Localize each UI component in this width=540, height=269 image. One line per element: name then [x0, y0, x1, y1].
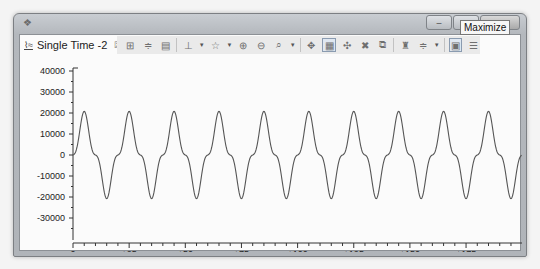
minimize-button[interactable]: –: [426, 15, 452, 30]
x-tick-label: +125: [344, 249, 364, 252]
snap-icon[interactable]: ✣: [340, 38, 354, 52]
y-tick-label: -20000: [37, 192, 65, 202]
y-tick-label: 0: [60, 150, 65, 160]
x-tick-label: +150: [400, 249, 420, 252]
pan-icon[interactable]: ✥: [305, 38, 319, 52]
zoom-box-icon[interactable]: ▤: [158, 38, 172, 52]
x-tick-label: +25: [122, 249, 137, 252]
fit-all-icon[interactable]: ⊞: [123, 38, 137, 52]
zoom-tool-icon[interactable]: ⌕: [272, 38, 286, 52]
y-tick-label: 10000: [40, 129, 65, 139]
dropdown-arrow-icon[interactable]: ▼: [227, 42, 233, 48]
zoom-in-icon[interactable]: ⊕: [236, 38, 250, 52]
list-icon[interactable]: ☰: [466, 38, 480, 52]
y-tick-label: 20000: [40, 108, 65, 118]
x-tick-label: 0: [70, 249, 75, 252]
x-tick-label: +100: [287, 249, 307, 252]
toolbar-separator: [444, 38, 445, 52]
toolbar-separator: [300, 38, 301, 52]
waveform-series-line: [73, 111, 522, 198]
fit-vertical-icon[interactable]: ≑: [141, 38, 155, 52]
settings-cross-icon[interactable]: ✖: [358, 38, 372, 52]
adjust-icon[interactable]: ≑: [416, 38, 430, 52]
app-icon: ❖: [23, 18, 35, 28]
export-icon[interactable]: ⧉: [375, 38, 389, 52]
x-tick-label: +75: [234, 249, 249, 252]
dropdown-arrow-icon[interactable]: ▼: [434, 42, 440, 48]
dropdown-arrow-icon[interactable]: ▼: [290, 42, 296, 48]
y-tick-label: 30000: [40, 87, 65, 97]
image-view-icon[interactable]: ▣: [449, 38, 463, 52]
y-tick-label: -10000: [37, 171, 65, 181]
find-icon[interactable]: ♜: [398, 38, 412, 52]
chart-toolbar: ⊞≑▤⊥▼☆▼⊕⊖⌕▼✥▦✣✖⧉♜≑▼▣☰: [117, 36, 480, 54]
x-tick-label: +50: [178, 249, 193, 252]
marker-icon[interactable]: ☆: [209, 38, 223, 52]
grid-view-icon[interactable]: ▦: [322, 38, 336, 52]
tab-label: Single Time -2: [37, 39, 107, 51]
x-tick-label: +175: [456, 249, 476, 252]
tab-single-time[interactable]: ⌇≈ Single Time -2 ☒: [20, 35, 128, 55]
cursor-icon[interactable]: ⊥: [181, 38, 195, 52]
editor-area: ⌇≈ Single Time -2 ☒ ⊞≑▤⊥▼☆▼⊕⊖⌕▼✥▦✣✖⧉♜≑▼▣…: [19, 34, 521, 251]
y-tick-label: -30000: [37, 213, 65, 223]
zoom-out-icon[interactable]: ⊖: [254, 38, 268, 52]
app-window: ❖ – □ ✕ ⌇≈ Single Time -2 ☒ ⊞≑▤⊥▼☆▼⊕⊖⌕▼✥…: [13, 13, 527, 257]
waveform-icon: ⌇≈: [24, 40, 33, 50]
dropdown-arrow-icon[interactable]: ▼: [199, 42, 205, 48]
y-tick-label: 40000: [40, 66, 65, 76]
chart-plot[interactable]: 400003000020000100000-10000-20000-300000…: [20, 56, 522, 252]
toolbar-separator: [176, 38, 177, 52]
minimize-icon: –: [436, 18, 441, 28]
toolbar-separator: [393, 38, 394, 52]
maximize-tooltip: Maximize: [460, 20, 510, 35]
